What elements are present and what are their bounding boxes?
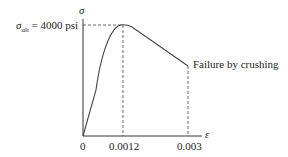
stress-strain-curve [83, 25, 188, 136]
x-axis-label: ε [205, 130, 209, 140]
x-tick-0.0012: 0.0012 [109, 141, 139, 152]
x-tick-0.003: 0.003 [177, 141, 202, 152]
y-axis-label: σ [79, 5, 84, 16]
x-tick-0: 0 [80, 141, 86, 152]
failure-annotation: Failure by crushing [193, 59, 279, 70]
sigma-ult-label: σult = 4000 psi [16, 20, 78, 34]
